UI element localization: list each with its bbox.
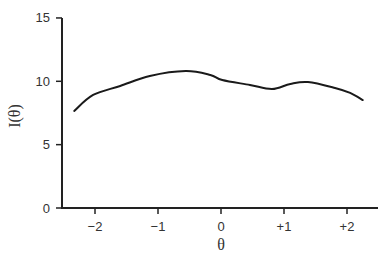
- x-tick-label: −1: [151, 219, 166, 234]
- y-tick-label: 10: [36, 74, 50, 89]
- y-tick-label: 15: [36, 10, 50, 25]
- x-tick-label: 0: [217, 219, 224, 234]
- x-tick-label: +2: [340, 219, 355, 234]
- y-axis-label: I(θ): [6, 104, 24, 128]
- x-axis-label: θ: [217, 236, 225, 253]
- x-tick-label: −2: [88, 219, 103, 234]
- line-chart: 051015−2−10+1+2 I(θ) θ: [0, 0, 387, 261]
- axes: 051015−2−10+1+2: [36, 10, 378, 234]
- y-tick-label: 5: [43, 137, 50, 152]
- y-tick-label: 0: [43, 201, 50, 216]
- x-tick-label: +1: [277, 219, 292, 234]
- data-line: [74, 71, 363, 111]
